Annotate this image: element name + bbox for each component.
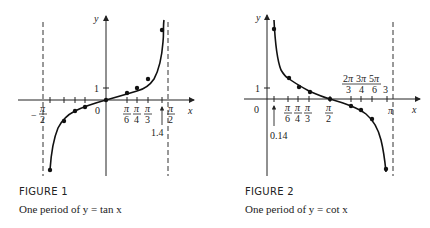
tan-tick-label-pi-over-3: π 3 <box>144 103 152 125</box>
cot-y-label: y <box>255 12 261 23</box>
tan-tick-label-pi-over-6: π 6 <box>123 103 131 125</box>
svg-text:π: π <box>134 103 140 114</box>
cot-annotation-0-14: 0.14 <box>270 130 288 141</box>
tan-origin-label: 0 <box>95 105 100 116</box>
svg-text:π: π <box>326 102 332 113</box>
tan-y-label: y <box>93 13 99 24</box>
cot-tick-label-pi-over-3: π 3 <box>304 102 312 124</box>
tan-y-one-label: 1 <box>94 83 99 94</box>
figure-1-caption: One period of y = tan x <box>19 203 122 215</box>
svg-text:5π: 5π <box>369 73 380 84</box>
svg-text:π: π <box>305 102 311 113</box>
tan-chart: y x 0 1 − π 2 π 6 π 4 π 3 π <box>18 13 194 176</box>
svg-text:π: π <box>295 102 301 113</box>
tan-annotation-1-4: 1.4 <box>151 127 164 138</box>
tan-tick-label-pi-over-2: π 2 <box>167 103 175 125</box>
tan-x-label: x <box>187 105 193 116</box>
svg-text:3: 3 <box>346 84 351 95</box>
tan-curve <box>50 20 164 170</box>
tan-tick-label-neg-pi-over-2: − π 2 <box>31 103 47 125</box>
svg-text:3: 3 <box>145 114 150 125</box>
svg-text:6: 6 <box>372 84 377 95</box>
svg-text:2: 2 <box>168 114 173 125</box>
cot-tick-label-5pi-over-6: 5π 6 <box>368 73 381 95</box>
svg-text:2: 2 <box>326 113 331 124</box>
figure-1-label: FIGURE 1 <box>19 186 68 197</box>
svg-text:3: 3 <box>305 113 310 124</box>
figure-2-caption: One period of y = cot x <box>245 203 348 215</box>
cot-chart: y x 0 1 π 6 π 4 π 3 π 2 2π 3 <box>244 12 420 176</box>
cot-tick-label-pi-over-2: π 2 <box>325 102 333 124</box>
svg-text:6: 6 <box>285 113 290 124</box>
svg-text:3π: 3π <box>356 73 367 84</box>
svg-text:π: π <box>145 103 151 114</box>
cot-origin-label: 0 <box>254 104 259 115</box>
figure-2-label: FIGURE 2 <box>245 186 294 197</box>
svg-text:−: − <box>31 110 37 121</box>
svg-text:π: π <box>124 103 130 114</box>
cot-x-label: x <box>411 104 417 115</box>
svg-text:π: π <box>285 102 291 113</box>
svg-text:4: 4 <box>359 84 364 95</box>
cot-tick-label-3: 3 <box>383 84 388 95</box>
cot-tick-label-pi-over-6: π 6 <box>284 102 292 124</box>
cot-tick-label-2pi-over-3: 2π 3 <box>342 73 355 95</box>
cot-tick-label-pi-over-4: π 4 <box>294 102 302 124</box>
svg-text:4: 4 <box>134 114 139 125</box>
svg-text:2: 2 <box>40 114 45 125</box>
cot-y-one-label: 1 <box>255 83 260 94</box>
svg-text:π: π <box>40 103 46 114</box>
cot-tick-label-3pi-over-4: 3π 4 <box>355 73 368 95</box>
tan-tick-label-pi-over-4: π 4 <box>133 103 141 125</box>
svg-text:6: 6 <box>124 114 129 125</box>
svg-text:2π: 2π <box>343 73 354 84</box>
svg-text:π: π <box>168 103 174 114</box>
svg-text:4: 4 <box>295 113 300 124</box>
